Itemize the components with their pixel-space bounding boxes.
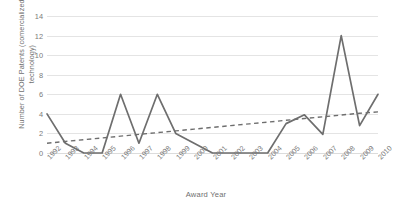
x-axis-tick-labels: 1992199319941995199619971998199920002001… <box>47 155 378 189</box>
y-tick-label-8: 8 <box>21 70 43 79</box>
trendline <box>47 112 378 143</box>
x-axis-title: Award Year <box>0 190 388 199</box>
y-tick-label-0: 0 <box>21 149 43 158</box>
x-tick-label-2010: 2010 <box>376 144 394 162</box>
y-tick-label-12: 12 <box>21 31 43 40</box>
y-tick-label-14: 14 <box>21 12 43 21</box>
data-series-line <box>47 36 378 153</box>
y-tick-label-4: 4 <box>21 109 43 118</box>
y-tick-label-2: 2 <box>21 129 43 138</box>
y-tick-label-6: 6 <box>21 90 43 99</box>
y-axis-tick-labels: 02468101214 <box>19 16 43 153</box>
series-layer <box>47 16 378 153</box>
y-tick-label-10: 10 <box>21 51 43 60</box>
plot-area <box>47 16 378 153</box>
